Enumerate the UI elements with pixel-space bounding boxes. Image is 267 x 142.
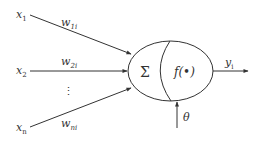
- summation-symbol: Σ: [140, 64, 150, 80]
- input-n-arrow: [30, 88, 131, 127]
- weight-2-label: w2i: [61, 55, 77, 70]
- threshold: θ: [177, 102, 190, 128]
- output-label: yi: [224, 56, 234, 71]
- input-1: x1 w1i: [16, 8, 131, 54]
- input-n-label: xn: [16, 121, 27, 136]
- neuron-diagram: x1 w1i x2 w2i ⋮ xn wni Σ f(•) yi θ: [0, 0, 267, 142]
- ellipsis: ⋮: [63, 85, 74, 98]
- neuron-divider: [160, 41, 171, 101]
- threshold-label: θ: [183, 111, 190, 124]
- input-2-label: x2: [16, 64, 27, 79]
- weight-n-label: wni: [61, 117, 77, 132]
- output: yi: [213, 56, 248, 71]
- input-1-label: x1: [16, 8, 27, 23]
- weight-1-label: w1i: [61, 16, 77, 31]
- input-2: x2 w2i: [16, 55, 127, 79]
- input-1-arrow: [30, 15, 131, 54]
- activation-function: f(•): [173, 65, 195, 79]
- neuron-body: Σ f(•): [128, 41, 213, 101]
